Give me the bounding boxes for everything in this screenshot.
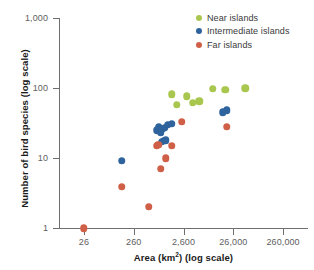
data-point xyxy=(153,142,161,150)
y-axis-tick xyxy=(53,18,59,19)
x-axis-tick xyxy=(184,229,185,235)
data-point xyxy=(168,120,176,128)
data-point xyxy=(155,123,163,131)
legend-item-label: Far islands xyxy=(207,40,252,50)
data-point xyxy=(223,107,231,115)
y-axis-tick-label: 10 xyxy=(38,153,48,163)
x-axis-title-tail: ) (log scale) xyxy=(179,252,233,263)
x-axis-tick-label: 260 xyxy=(126,237,141,247)
data-point xyxy=(223,123,231,131)
data-point xyxy=(161,124,169,132)
x-axis-tick-label: 2,600 xyxy=(172,237,195,247)
chart-legend: Near islandsIntermediate islandsFar isla… xyxy=(196,11,290,52)
data-point xyxy=(157,129,165,137)
chart-figure: 1101001,000 262602,60026,000260,000 Numb… xyxy=(0,0,314,270)
x-axis-title: Area (km2) (log scale) xyxy=(59,252,308,263)
data-point xyxy=(196,97,204,105)
data-point xyxy=(168,142,176,150)
x-axis-tick xyxy=(134,229,135,235)
data-point xyxy=(145,203,153,211)
x-axis-tick-label: 260,000 xyxy=(266,237,299,247)
data-point xyxy=(159,125,167,133)
data-point xyxy=(173,101,181,109)
x-axis-tick xyxy=(84,229,85,235)
data-point xyxy=(118,183,126,191)
data-point xyxy=(162,136,170,144)
x-axis-tick-label: 26 xyxy=(79,237,89,247)
y-axis-tick xyxy=(53,88,59,89)
data-point xyxy=(118,157,126,165)
data-point xyxy=(183,93,191,101)
data-point xyxy=(162,154,170,162)
data-point xyxy=(178,118,186,126)
data-point xyxy=(164,121,172,129)
y-axis-tick-label: 1,000 xyxy=(25,13,48,23)
y-axis-tick-label: 100 xyxy=(33,83,48,93)
x-axis-title-main: Area (km xyxy=(134,252,175,263)
data-point xyxy=(157,165,165,173)
x-axis-tick xyxy=(233,229,234,235)
legend-item: Near islands xyxy=(196,11,290,24)
data-point xyxy=(154,141,162,149)
data-point xyxy=(160,137,168,145)
data-point xyxy=(209,85,217,93)
y-axis-line xyxy=(59,18,60,229)
legend-swatch-icon xyxy=(196,42,202,48)
y-axis-title: Number of bird species (log scale) xyxy=(19,24,30,234)
data-point xyxy=(222,86,230,94)
legend-item: Far islands xyxy=(196,38,290,51)
legend-swatch-icon xyxy=(196,15,202,21)
x-axis-tick xyxy=(283,229,284,235)
data-point xyxy=(154,126,162,134)
legend-item-label: Intermediate islands xyxy=(207,26,290,36)
legend-item-label: Near islands xyxy=(207,13,258,23)
legend-swatch-icon xyxy=(196,28,202,34)
data-point xyxy=(189,99,197,107)
data-point xyxy=(241,85,249,93)
y-axis-tick xyxy=(53,228,59,229)
x-axis-tick-label: 26,000 xyxy=(219,237,247,247)
legend-item: Intermediate islands xyxy=(196,25,290,38)
y-axis-tick-label: 1 xyxy=(43,223,48,233)
data-point xyxy=(168,90,176,98)
data-point xyxy=(219,109,227,117)
data-point xyxy=(158,138,166,146)
y-axis-tick xyxy=(53,158,59,159)
